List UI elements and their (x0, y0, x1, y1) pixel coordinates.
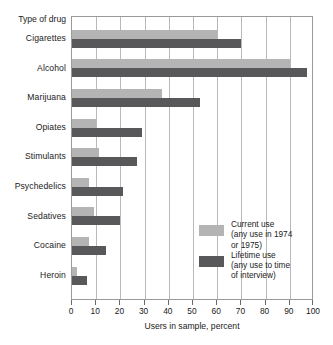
x-axis-tick-label: 10 (91, 306, 100, 316)
x-axis-tick-label: 70 (236, 306, 245, 316)
bar-group (72, 26, 312, 56)
category-label: Marijuana (0, 92, 66, 102)
x-axis-tick-labels: 0102030405060708090100 (71, 306, 313, 318)
bar-group (72, 115, 312, 145)
bar-lifetime-use (72, 187, 123, 196)
bar-current-use (72, 119, 96, 128)
bar-group (72, 174, 312, 204)
x-axis-tick-label: 90 (284, 306, 293, 316)
legend: Current use (any use in 1974 or 1975)Lif… (199, 219, 311, 281)
legend-swatch (199, 256, 224, 267)
x-axis-tick-label: 50 (187, 306, 196, 316)
bar-group (72, 144, 312, 174)
x-axis-tick (240, 300, 241, 305)
x-axis-tick (71, 300, 72, 305)
bar-group (72, 85, 312, 115)
category-label: Opiates (0, 122, 66, 132)
bar-chart: Type of drug CigarettesAlcoholMarijuanaO… (0, 0, 333, 345)
x-axis-tick (119, 300, 120, 305)
legend-entry: Lifetime use (any use to time of intervi… (199, 250, 311, 281)
bar-lifetime-use (72, 39, 241, 48)
x-axis-tick-label: 40 (163, 306, 172, 316)
category-label: Heroin (0, 270, 66, 280)
x-axis-tick-label: 100 (306, 306, 320, 316)
bar-lifetime-use (72, 216, 120, 225)
category-label-list: CigarettesAlcoholMarijuanaOpiatesStimula… (0, 16, 68, 300)
x-axis-tick (144, 300, 145, 305)
bar-lifetime-use (72, 98, 200, 107)
category-label: Psychedelics (0, 181, 66, 191)
x-axis-tick (289, 300, 290, 305)
category-label: Cigarettes (0, 33, 66, 43)
category-label: Stimulants (0, 151, 66, 161)
x-axis-tick-label: 60 (212, 306, 221, 316)
x-axis-tick (216, 300, 217, 305)
category-label: Sedatives (0, 211, 66, 221)
bar-current-use (72, 237, 89, 246)
x-axis-tick-label: 20 (115, 306, 124, 316)
bar-current-use (72, 148, 99, 157)
x-axis-tick (95, 300, 96, 305)
x-axis-tick (192, 300, 193, 305)
bar-lifetime-use (72, 68, 307, 77)
bar-current-use (72, 30, 217, 39)
category-label: Alcohol (0, 63, 66, 73)
legend-label: Lifetime use (any use to time of intervi… (231, 250, 311, 281)
x-axis-tick (312, 300, 313, 305)
bar-current-use (72, 89, 162, 98)
bar-current-use (72, 178, 89, 187)
bar-lifetime-use (72, 128, 142, 137)
x-axis-tick (168, 300, 169, 305)
legend-entry: Current use (any use in 1974 or 1975) (199, 219, 311, 250)
bar-lifetime-use (72, 246, 106, 255)
bar-current-use (72, 267, 77, 276)
category-label: Cocaine (0, 240, 66, 250)
legend-label: Current use (any use in 1974 or 1975) (231, 219, 311, 250)
x-axis-tick-label: 0 (69, 306, 74, 316)
x-axis-tick-label: 80 (260, 306, 269, 316)
x-axis-tick (265, 300, 266, 305)
bar-lifetime-use (72, 276, 87, 285)
bar-group (72, 55, 312, 85)
x-axis-tick-label: 30 (139, 306, 148, 316)
bar-current-use (72, 59, 290, 68)
legend-swatch (199, 225, 224, 236)
x-axis-title: Users in sample, percent (71, 321, 313, 331)
bar-lifetime-use (72, 157, 137, 166)
bar-current-use (72, 207, 94, 216)
